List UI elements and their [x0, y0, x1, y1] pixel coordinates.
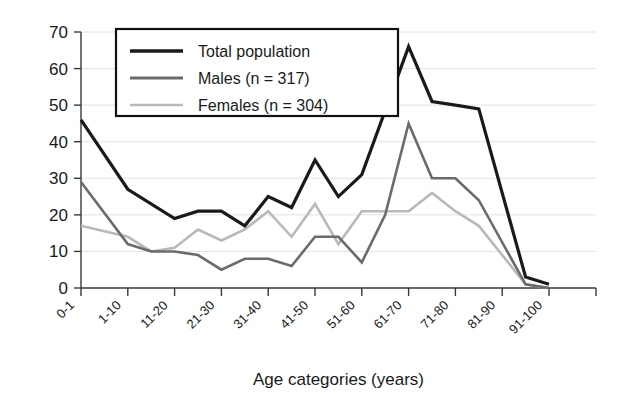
y-tick-label: 70	[49, 23, 68, 42]
series-line-females-n-304	[81, 193, 549, 288]
legend-label: Total population	[198, 43, 310, 60]
y-tick-label: 60	[49, 60, 68, 79]
x-tick-label: 91-100	[506, 298, 545, 337]
y-tick-label: 20	[49, 206, 68, 225]
line-chart: 010203040506070 0-11-1011-2021-3031-4041…	[0, 0, 621, 397]
legend-label: Males (n = 317)	[198, 70, 310, 87]
y-tick-label: 30	[49, 169, 68, 188]
y-tick-marks	[74, 32, 81, 288]
x-tick-label: 71-80	[417, 298, 451, 332]
chart-canvas: 010203040506070 0-11-1011-2021-3031-4041…	[0, 0, 621, 397]
x-tick-marks	[81, 288, 596, 296]
y-tick-label: 10	[49, 242, 68, 261]
y-tick-label: 40	[49, 133, 68, 152]
legend-label: Females (n = 304)	[198, 97, 328, 114]
x-tick-label: 31-40	[230, 298, 264, 332]
y-axis-tick-labels: 010203040506070	[49, 23, 68, 298]
x-tick-label: 11-20	[137, 298, 170, 331]
x-tick-label: 51-60	[324, 298, 358, 332]
x-axis-tick-labels: 0-11-1011-2021-3031-4041-5051-6061-7071-…	[53, 298, 545, 337]
x-axis-title: Age categories (years)	[253, 370, 424, 389]
x-tick-label: 61-70	[371, 298, 405, 332]
y-tick-label: 50	[49, 96, 68, 115]
x-tick-label: 21-30	[183, 298, 217, 332]
chart-legend: Total populationMales (n = 317)Females (…	[116, 29, 398, 116]
y-tick-label: 0	[59, 279, 68, 298]
x-tick-label: 41-50	[277, 298, 311, 332]
x-tick-label: 81-90	[464, 298, 498, 332]
x-tick-label: 1-10	[95, 298, 124, 327]
x-tick-label: 0-1	[53, 298, 77, 322]
